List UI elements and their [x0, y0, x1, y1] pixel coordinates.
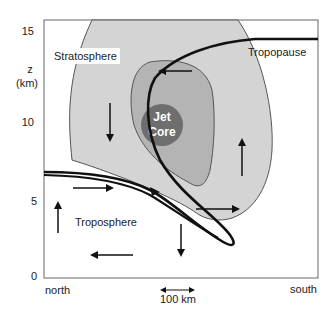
jet-stream-diagram: Jet Core Stratosphere Tropopause Troposp… [0, 0, 334, 312]
x-label-north: north [45, 284, 70, 296]
jet-core-label-line1: Jet [153, 110, 170, 124]
stratosphere-label: Stratosphere [54, 50, 117, 62]
tropopause-label: Tropopause [248, 46, 306, 58]
y-axis-label-unit: (km) [16, 77, 38, 89]
y-tick-0: 0 [31, 270, 37, 282]
troposphere-label: Troposphere [75, 216, 137, 228]
scale-label: 100 km [160, 293, 196, 305]
y-tick-10: 10 [22, 116, 34, 128]
y-tick-15: 15 [22, 25, 34, 37]
x-label-south: south [290, 283, 317, 295]
y-axis-label-z: z [27, 63, 33, 75]
y-tick-5: 5 [31, 195, 37, 207]
